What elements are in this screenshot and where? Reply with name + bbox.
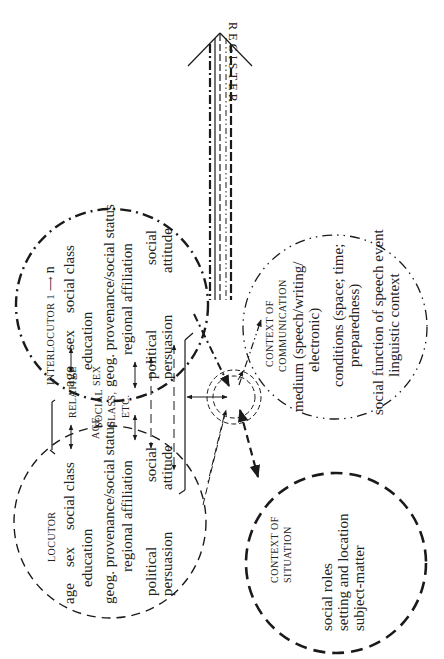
svg-text:ETC.: ETC. <box>120 395 131 418</box>
svg-text:SITUATION: SITUATION <box>282 526 293 583</box>
svg-text:SOCIAL: SOCIAL <box>93 389 104 428</box>
svg-text:CONTEXT OF: CONTEXT OF <box>269 516 280 583</box>
svg-text:setting and location: setting and location <box>335 513 351 631</box>
svg-text:subject-matter: subject-matter <box>351 545 367 631</box>
svg-text:medium (speech/writing/: medium (speech/writing/ <box>290 261 307 412</box>
svg-text:REGISTER: REGISTER <box>226 22 240 105</box>
svg-text:regional affiliation: regional affiliation <box>119 460 135 572</box>
svg-text:CONTEXT OF: CONTEXT OF <box>264 300 275 367</box>
svg-text:social: social <box>143 230 159 265</box>
svg-text:conditions (space; time;: conditions (space; time; <box>330 244 347 387</box>
svg-text:political: political <box>143 547 159 596</box>
svg-text:geog. provenance/social status: geog. provenance/social status <box>101 421 117 604</box>
context-situation-text: CONTEXT OF SITUATION social roles settin… <box>269 513 367 631</box>
svg-text:education: education <box>79 311 95 370</box>
register-label: REGISTER <box>226 22 240 105</box>
register-diagram: REGISTER INTERLOCUTOR 1 ⟶ n age sex soci… <box>0 0 444 659</box>
relative-title: RELATIVE <box>67 366 78 418</box>
locutor-title: LOCUTOR <box>46 511 57 562</box>
context-communication-text: CONTEXT OF COMMUNICATION medium (speech/… <box>264 228 402 415</box>
svg-text:social: social <box>143 447 159 482</box>
hub-arrows <box>187 314 261 505</box>
svg-text:attitude: attitude <box>159 228 175 273</box>
interlocutor-text: INTERLOCUTOR 1 ⟶ n age sex social class … <box>42 204 175 387</box>
svg-text:social roles: social roles <box>319 563 335 631</box>
svg-text:regional affiliation: regional affiliation <box>119 243 135 355</box>
svg-text:geog. provenance/social status: geog. provenance/social status <box>101 204 117 387</box>
svg-text:persuasion: persuasion <box>159 314 175 379</box>
interlocutor-title: INTERLOCUTOR 1 ⟶ n <box>42 266 57 385</box>
locutor-text: LOCUTOR age sex social class education g… <box>46 421 175 604</box>
svg-text:CLASS,: CLASS, <box>106 391 117 428</box>
svg-text:attitude: attitude <box>159 445 175 490</box>
relative-labels: RELATIVE AGE SEX SOCIAL CLASS, ETC. <box>67 365 131 439</box>
svg-text:social class: social class <box>61 245 77 313</box>
svg-text:electronic): electronic) <box>306 308 323 372</box>
svg-text:preparedness): preparedness) <box>346 284 363 367</box>
svg-text:sex: sex <box>61 547 77 567</box>
svg-text:education: education <box>79 528 95 587</box>
svg-text:persuasion: persuasion <box>159 531 175 596</box>
svg-text:social function of speech even: social function of speech event <box>370 228 386 415</box>
svg-text:sex: sex <box>61 330 77 350</box>
svg-text:social class: social class <box>61 462 77 530</box>
svg-text:political: political <box>143 330 159 379</box>
svg-text:COMMUNICATION: COMMUNICATION <box>277 279 288 372</box>
relative-sex: SEX <box>91 365 102 386</box>
svg-text:age: age <box>61 583 77 604</box>
svg-text:linguistic context: linguistic context <box>386 272 402 377</box>
